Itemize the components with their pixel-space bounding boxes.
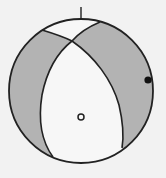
focal-mechanism-diagram — [0, 0, 166, 178]
open-axis-marker-icon — [78, 114, 84, 120]
filled-axis-marker-icon — [144, 76, 151, 83]
